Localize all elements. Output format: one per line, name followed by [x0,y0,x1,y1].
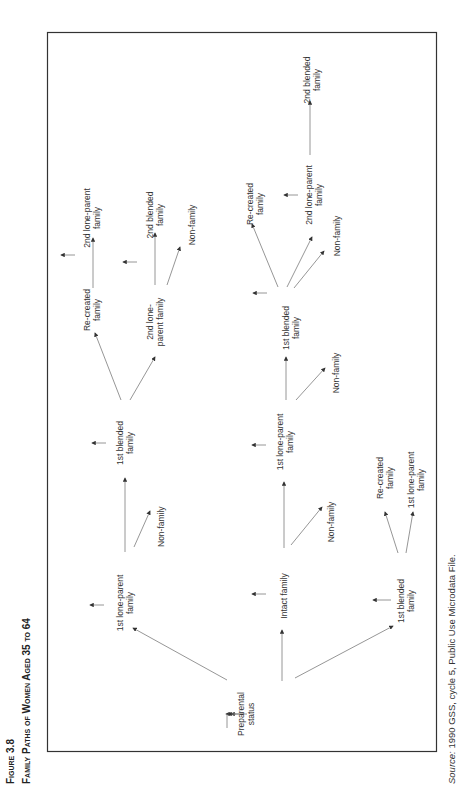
node-preparental-status: Preparental status [236,692,256,736]
figure-title: Family Paths of Women Aged 35 to 64 [21,618,32,784]
node-label: 2nd blended [302,56,312,103]
node-label: 1st blended [115,421,125,465]
edge-preparental-lp1 [133,628,227,680]
node-label: 2nd lone-parent [304,165,314,225]
node-label: family [314,183,324,206]
node-label: family [285,430,295,453]
node-label: family [125,431,135,454]
node-label: Re-created [82,289,92,331]
node-1st-lone-parent-family-a: 1st lone-parent family [115,574,135,631]
edge-lp1b-nf [296,368,325,400]
node-re-created-family-b: Re-created family [82,289,102,331]
node-label: family [92,206,102,229]
node-intact-family: Intact family [279,573,289,619]
figure-title-block: Figure 3.8 Family Paths of Women Aged 35… [5,618,32,784]
node-non-family-b: Non-family [326,501,336,542]
node-label: 2nd lone-parent [82,188,92,248]
node-label: Re-created [245,183,255,225]
node-2nd-lone-parent-family-b: 2nd lone-parent family [82,188,102,248]
edge-bl1a-lp1c [406,512,413,553]
exit-arrows-final [60,195,372,605]
diagram-frame [48,33,437,752]
node-label: 1st lone-parent [275,413,285,470]
exit-stubs [104,606,247,714]
node-re-created-family-c: Re-created family [245,183,265,225]
edge-intact-nf [291,507,322,545]
edge-bl1b-rcb [95,333,121,400]
node-label: 1st blended [396,579,406,623]
node-1st-blended-family-b: 1st blended family [115,421,135,465]
nodes: Preparental status 1st lone-parent famil… [82,56,426,736]
figure-number: Figure 3.8 [5,739,16,784]
node-1st-lone-parent-family-b: 1st lone-parent family [275,413,295,470]
node-2nd-lone-parent-family-c: 2nd lone-parent family [304,165,324,225]
edge-bl1c-rcc [252,224,278,287]
source-note: Source: 1990 GSS, cycle 5, Public Use Mi… [446,554,457,784]
node-label: family [125,591,135,614]
node-label: status [246,703,256,726]
node-1st-lone-parent-family-c: 1st lone-parent family [406,451,426,508]
node-2nd-blended-family-b: 2nd blended family [302,56,322,103]
visible-stubs [61,195,391,714]
node-label: family [312,68,322,91]
family-paths-diagram: Figure 3.8 Family Paths of Women Aged 35… [0,0,474,789]
node-1st-blended-family-c: 1st blended family [281,306,301,350]
edge-bl1c-lp2c [287,237,312,287]
node-label: family [291,316,301,339]
node-label: 1st lone-parent [406,451,416,508]
source-prefix: Source: [446,751,457,784]
node-2nd-blended-family-a: 2nd blended family [145,191,165,238]
node-label: 1st lone-parent [115,574,125,631]
node-label: family [155,203,165,226]
node-2nd-lone-parent-family-a: 2nd lone- parent family [145,297,165,346]
node-label: parent family [155,297,165,346]
source-text: 1990 GSS, cycle 5, Public Use Microdata … [446,554,457,751]
node-label: Preparental [236,692,246,736]
edge-preparental-bl1 [295,626,393,678]
node-non-family-a: Non-family [156,506,166,547]
node-label: family [255,192,265,215]
node-label: Re-created [375,457,385,499]
node-label: family [385,466,395,489]
node-label: Intact family [279,573,289,619]
node-label: 1st blended [281,306,291,350]
node-1st-blended-family-a: 1st blended family [396,579,416,623]
node-label: family [406,589,416,612]
node-label: Non-family [326,501,336,542]
svg-text:Source: 1990 GSS, cycle 5, Pub: Source: 1990 GSS, cycle 5, Public Use Mi… [446,554,457,784]
node-label: Non-family [156,506,166,547]
node-label: 2nd blended [145,191,155,238]
node-non-family-c: Non-family [187,204,197,245]
node-label: family [416,468,426,491]
edge-lp1a-nf [134,511,150,547]
node-label: Non-family [187,204,197,245]
node-non-family-e: Non-family [332,215,342,256]
edge-lp2a-nf [167,247,180,285]
node-label: Non-family [332,215,342,256]
edge-bl1a-rca [385,512,398,553]
node-re-created-family-a: Re-created family [375,457,395,499]
edge-bl1b-lp2a [130,357,155,400]
node-label: 2nd lone- [145,304,155,340]
node-label: family [92,298,102,321]
node-label: Non-family [331,352,341,393]
node-non-family-d: Non-family [331,352,341,393]
edge-bl1c-nf [294,251,324,288]
